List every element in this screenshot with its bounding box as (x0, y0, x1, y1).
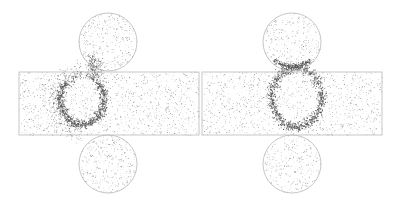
top-circle-right (263, 13, 321, 71)
bottom-circle-left (79, 135, 137, 193)
bottom-circle-right (263, 135, 321, 193)
figure-canvas (0, 0, 400, 204)
particle-dots-left (19, 13, 199, 193)
panel-right (202, 13, 382, 193)
particle-dots-right (202, 13, 382, 192)
top-circle-left (79, 13, 137, 71)
panel-left (19, 13, 199, 193)
